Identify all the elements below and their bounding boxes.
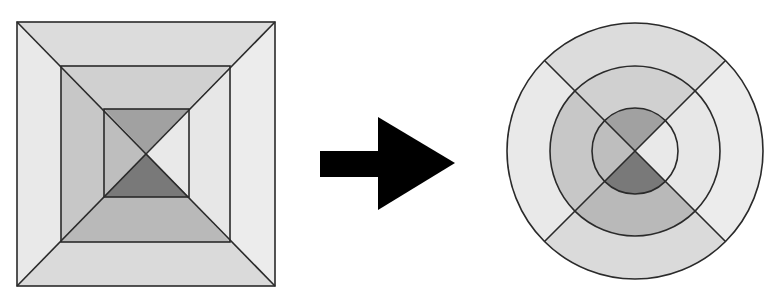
concentric-circles-figure [507,23,763,279]
right-arrow-icon [320,117,455,210]
concentric-squares-figure [17,22,275,286]
arrow-head [378,117,455,210]
diagram-canvas [0,0,779,299]
arrow-shaft [320,151,379,177]
